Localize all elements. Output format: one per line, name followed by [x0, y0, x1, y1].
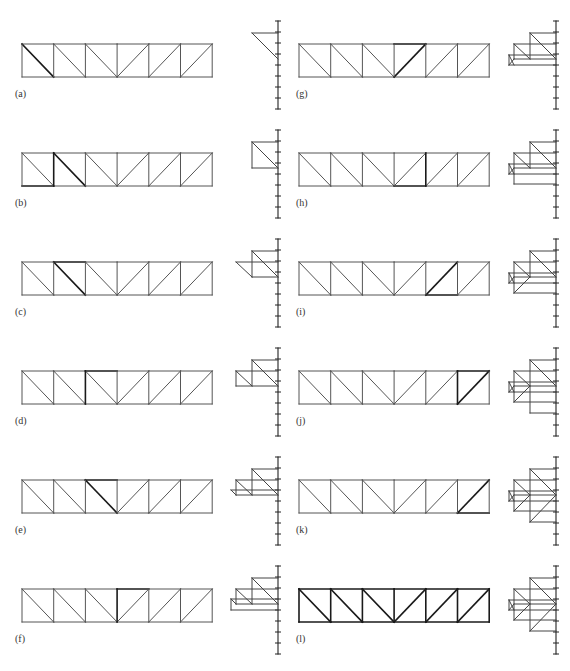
diagonal-member: [181, 371, 213, 404]
diagonal-member: [458, 371, 490, 404]
panel-b: [22, 130, 281, 218]
diagonal-member: [362, 44, 394, 77]
force-polygon-line: [514, 480, 530, 495]
diagonal-member: [54, 153, 86, 186]
diagonal-member: [394, 371, 426, 404]
force-polygon-line: [514, 589, 530, 604]
diagonal-member: [22, 44, 54, 77]
diagonal-member: [331, 44, 363, 77]
panel-label: (a): [15, 88, 26, 99]
diagonal-member: [54, 480, 86, 513]
diagonal-member: [117, 153, 149, 186]
panel-h: [299, 130, 559, 218]
force-polygon-line: [514, 386, 530, 402]
diagonal-member: [426, 153, 458, 186]
diagonal-member: [117, 44, 149, 77]
panel-label: (b): [15, 197, 27, 208]
panel-label: (e): [15, 524, 26, 535]
panel-a: [22, 21, 281, 109]
panel-label: (f): [15, 633, 25, 644]
diagonal-member: [426, 480, 458, 513]
diagonal-member: [394, 480, 426, 513]
panel-label: (j): [296, 415, 305, 426]
diagonal-member: [149, 371, 181, 404]
diagonal-member: [426, 44, 458, 77]
diagonal-member: [85, 371, 117, 404]
diagonal-member: [394, 262, 426, 295]
diagonal-member: [149, 262, 181, 295]
diagonal-member: [181, 262, 213, 295]
diagonal-member: [85, 44, 117, 77]
diagonal-member: [299, 153, 331, 186]
diagonal-member: [458, 262, 490, 295]
diagonal-member: [331, 480, 363, 513]
diagonal-member: [362, 153, 394, 186]
force-polygon-line: [514, 495, 530, 511]
diagonal-member: [117, 262, 149, 295]
force-polygon-line: [252, 360, 278, 386]
diagonal-member: [362, 589, 394, 622]
diagonal-member: [331, 153, 363, 186]
diagonal-member: [54, 262, 86, 295]
diagonal-member: [426, 589, 458, 622]
diagonal-member: [54, 44, 86, 77]
diagonal-member: [299, 589, 331, 622]
diagonal-member: [458, 153, 490, 186]
diagonal-member: [85, 153, 117, 186]
diagonal-member: [54, 371, 86, 404]
diagonal-member: [394, 44, 426, 77]
diagonal-member: [362, 262, 394, 295]
diagonal-member: [299, 44, 331, 77]
diagonal-member: [394, 153, 426, 186]
panel-label: (d): [15, 415, 27, 426]
panel-l: [299, 566, 559, 654]
force-polygon-line: [252, 251, 278, 277]
panel-k: [299, 457, 559, 545]
force-polygon-line: [514, 277, 530, 293]
diagonal-member: [331, 371, 363, 404]
diagonal-member: [54, 589, 86, 622]
diagonal-member: [181, 589, 213, 622]
diagonal-member: [22, 371, 54, 404]
panel-i: [299, 239, 559, 327]
diagonal-member: [331, 589, 363, 622]
force-polygon-line: [514, 44, 530, 59]
force-polygon-line: [236, 480, 252, 495]
force-polygon-line: [236, 262, 252, 277]
diagonal-member: [426, 371, 458, 404]
panel-label: (g): [296, 88, 308, 99]
diagonal-member: [149, 153, 181, 186]
diagonal-member: [331, 262, 363, 295]
panel-label: (i): [296, 306, 305, 317]
force-polygon-line: [236, 371, 252, 386]
diagonal-member: [22, 153, 54, 186]
force-polygon-line: [252, 578, 278, 604]
diagonal-member: [458, 589, 490, 622]
diagonal-member: [22, 480, 54, 513]
force-polygon-line: [252, 142, 278, 168]
diagonal-member: [299, 480, 331, 513]
diagonal-member: [362, 480, 394, 513]
diagonal-member: [299, 371, 331, 404]
diagonal-member: [299, 262, 331, 295]
panel-g: [299, 21, 559, 109]
diagonal-member: [22, 589, 54, 622]
panel-label: (k): [296, 524, 308, 535]
force-polygon-line: [514, 153, 530, 168]
force-polygon-line: [514, 262, 530, 277]
diagonal-member: [181, 480, 213, 513]
truss-figure: [0, 0, 570, 671]
diagonal-member: [117, 589, 149, 622]
panel-label: (l): [296, 633, 305, 644]
force-polygon-line: [231, 490, 236, 495]
diagonal-member: [458, 44, 490, 77]
diagonal-member: [458, 480, 490, 513]
diagonal-member: [149, 589, 181, 622]
panel-label: (h): [296, 197, 308, 208]
force-polygon-line: [530, 495, 556, 522]
diagonal-member: [362, 371, 394, 404]
force-polygon-line: [514, 604, 530, 620]
force-polygon-line: [530, 604, 556, 631]
force-polygon-line: [252, 33, 278, 59]
diagonal-member: [149, 44, 181, 77]
